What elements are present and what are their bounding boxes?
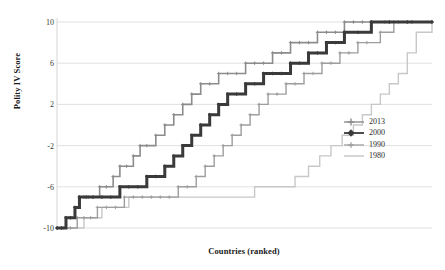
legend: 2013 2000 1990 <box>344 116 385 162</box>
legend-item-2000[interactable]: 2000 <box>344 128 385 140</box>
x-axis-title: Countries (ranked) <box>57 246 431 256</box>
legend-item-1980[interactable]: 1980 <box>344 151 385 163</box>
legend-label-2000: 2000 <box>369 128 385 138</box>
legend-item-1990[interactable]: 1990 <box>344 139 385 151</box>
legend-swatch-2000 <box>344 128 364 138</box>
legend-swatch-1980 <box>344 151 364 161</box>
legend-swatch-1990 <box>344 140 364 150</box>
legend-line-icon <box>344 140 364 150</box>
legend-line-icon <box>344 117 364 127</box>
legend-line-icon <box>344 128 364 138</box>
legend-label-1980: 1980 <box>369 151 385 161</box>
legend-label-2013: 2013 <box>369 117 385 127</box>
legend-swatch-2013 <box>344 117 364 127</box>
legend-line-icon <box>344 151 364 161</box>
legend-item-2013[interactable]: 2013 <box>344 116 385 128</box>
legend-label-1990: 1990 <box>369 140 385 150</box>
polity-score-step-chart: Polity IV Score 1062-2-6-10 2013 2000 <box>0 0 445 270</box>
